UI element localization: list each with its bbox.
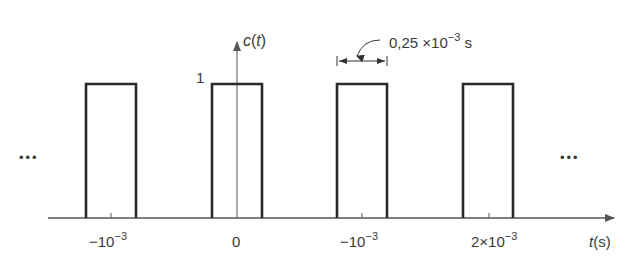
x-ticks [111,213,489,218]
y-axis-label: c(t) [243,32,266,49]
ellipsis-left: ••• [19,150,39,165]
pointer-arrow-icon [357,40,380,56]
tick-label-1: −10−3 [89,230,127,250]
width-annotation: 0,25 ×10−3 s [389,31,472,51]
pulse-4 [463,84,513,218]
tick-label-4: 2×10−3 [471,230,517,250]
pulse-3 [337,84,387,218]
x-axis-label: t(s) [589,233,611,250]
pulse-1 [86,84,136,218]
pulse-train-diagram: 0,25 ×10−3 s c(t) 1 ••• ••• −10−3 0 −10−… [0,0,633,267]
width-dimension [337,40,387,66]
tick-label-3: −10−3 [340,230,378,250]
ellipsis-right: ••• [560,150,580,165]
pulse-train [86,84,513,218]
amplitude-label: 1 [196,69,204,86]
tick-label-2: 0 [232,233,240,250]
